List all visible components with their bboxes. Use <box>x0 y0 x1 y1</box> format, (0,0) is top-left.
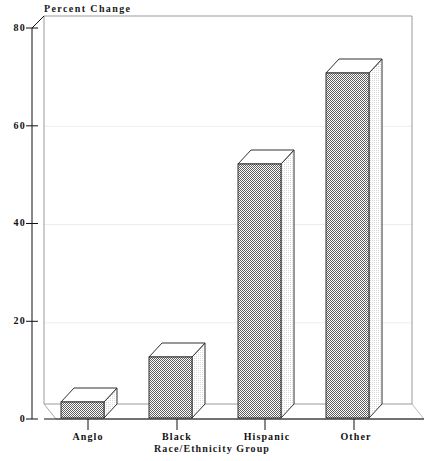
x-tick-label-other: Other <box>316 431 396 442</box>
y-axis-line <box>32 16 44 419</box>
x-tick-label-hispanic: Hispanic <box>222 431 312 442</box>
bar-other[interactable] <box>326 59 382 418</box>
bar-hispanic[interactable] <box>238 150 294 418</box>
bar-black[interactable] <box>149 343 205 418</box>
y-tick-label-20: 20 <box>0 315 26 326</box>
x-tick-label-black: Black <box>137 431 217 442</box>
y-tick-label-40: 40 <box>0 217 26 228</box>
x-axis-title: Race/Ethnicity Group <box>0 443 424 454</box>
y-tick-label-0: 0 <box>0 413 26 424</box>
bar-chart: Percent Change <box>0 0 424 461</box>
chart-canvas <box>0 0 424 461</box>
y-tick-label-60: 60 <box>0 120 26 131</box>
x-tick-label-anglo: Anglo <box>48 431 128 442</box>
bar-anglo[interactable] <box>61 388 117 418</box>
y-tick-label-80: 80 <box>0 22 26 33</box>
x-axis-ticks <box>88 419 354 430</box>
